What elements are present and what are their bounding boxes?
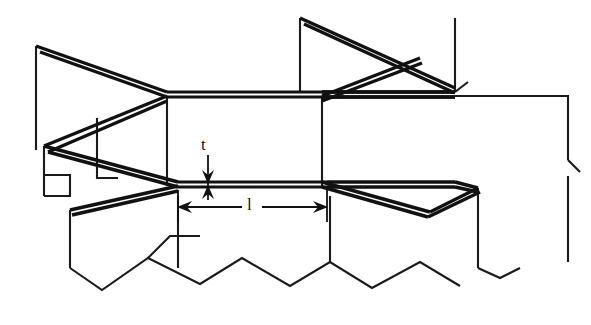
wall-right-chevron-down (327, 182, 455, 187)
dimension-t (202, 155, 214, 200)
top-cell-depth-tick (455, 82, 468, 92)
dimension-l (177, 190, 328, 222)
right-low-cell-bottom-zig (478, 268, 520, 278)
wall-center-top (167, 92, 322, 97)
wall-left-chevron-upper (36, 46, 167, 97)
dimension-label-t: t (201, 136, 206, 153)
wall-left-chevron-bottom (70, 186, 178, 215)
left-notch-outline (44, 175, 70, 196)
wall-top-chevron-upper (300, 18, 455, 93)
right-top-cell-outline (455, 96, 568, 160)
right-top-cell-depth-tick (568, 160, 580, 172)
depth-lines (36, 18, 580, 290)
figure-canvas: t l (0, 0, 591, 325)
bottom-zigzag-edge (70, 258, 460, 290)
wall-rightmid-chevron-up (322, 58, 422, 101)
cell-walls (36, 18, 480, 217)
honeycomb-diagram (0, 0, 591, 325)
bottom-left-connector (148, 236, 200, 258)
wall-left-chevron-lower2 (44, 146, 178, 187)
wall-center-bottom-rightleg (455, 182, 478, 192)
wall-left-chevron-lower (44, 96, 167, 152)
dimension-label-l: l (247, 196, 252, 213)
wall-center-bottom (178, 182, 327, 187)
